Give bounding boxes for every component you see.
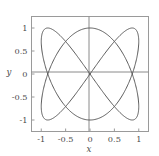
x-tick-label: -0.5 — [58, 134, 74, 144]
x-tick-label: -1 — [37, 134, 45, 144]
x-tick-label: 1 — [136, 134, 141, 144]
x-axis-label: x — [87, 144, 92, 154]
y-tick-label: -1 — [20, 115, 28, 125]
y-tick-label: 1 — [22, 23, 27, 33]
lissajous-plot: -1-0.500.51 10.50-0.5-1 x y — [0, 0, 159, 156]
y-tick-label: 0 — [22, 69, 27, 79]
y-axis-label: y — [6, 67, 12, 77]
y-tick-label: -0.5 — [12, 92, 28, 102]
y-tick-label: 0.5 — [14, 46, 27, 56]
x-tick-label: 0 — [87, 134, 92, 144]
x-tick-label: 0.5 — [108, 134, 121, 144]
chart-figure: -1-0.500.51 10.50-0.5-1 x y — [0, 0, 159, 156]
